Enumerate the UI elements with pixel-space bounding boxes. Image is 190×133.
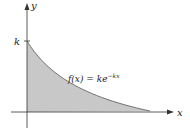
function-label-base: f(x) = ke (67, 74, 107, 84)
y-axis-arrow-icon (25, 3, 30, 10)
x-axis-label: x (177, 107, 183, 118)
function-label-exponent: −kx (107, 72, 120, 79)
function-label: f(x) = ke−kx (67, 72, 120, 84)
x-axis-arrow-icon (167, 110, 174, 115)
k-label: k (14, 36, 20, 47)
exponential-decay-diagram: y x k f(x) = ke−kx (0, 0, 190, 133)
y-axis-label: y (30, 0, 37, 11)
